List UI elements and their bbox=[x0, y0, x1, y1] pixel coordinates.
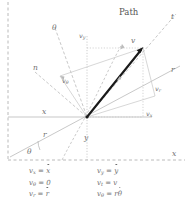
vtheta-component-label: vθ bbox=[62, 78, 69, 86]
equation-lhs: vθ bbox=[29, 179, 36, 187]
velocity-vector-label: v bbox=[131, 37, 135, 45]
equation-row: vx = x bbox=[29, 166, 51, 178]
vx-component-label: vx bbox=[146, 111, 152, 119]
equation-equals-sign: = bbox=[35, 190, 45, 198]
theta-angle-arc bbox=[38, 141, 40, 150]
equation-column-left: vx = xvθ = 0vr = r bbox=[29, 166, 51, 201]
n-axis-label: n bbox=[33, 64, 38, 72]
r-axis-right-label: r bbox=[171, 66, 175, 74]
vx-sub: x bbox=[150, 113, 153, 118]
equation-equals-sign: = bbox=[103, 179, 113, 187]
equation-rhs: y bbox=[114, 167, 118, 175]
vy-sub: y bbox=[83, 35, 86, 40]
equation-row: vy = y bbox=[97, 166, 122, 178]
equation-block: vx = xvθ = 0vr = r vy = yvt = vvθ = rθ bbox=[0, 163, 185, 205]
r-axis-line bbox=[10, 66, 180, 157]
vy-component-label: vy bbox=[79, 33, 85, 41]
x-axis-label: x bbox=[42, 108, 46, 116]
theta-angle-label: θ bbox=[27, 148, 32, 156]
equation-row: vt = v bbox=[97, 178, 122, 190]
equation-lhs: vy bbox=[97, 167, 104, 175]
velocity-components-figure: Path t r θ n x r θ y x v vy vx vr vθ vx … bbox=[0, 0, 185, 205]
equation-equals-sign: = bbox=[36, 167, 46, 175]
theta-axis-label: θ bbox=[52, 24, 57, 32]
equation-rhs: r bbox=[46, 190, 49, 198]
y-axis-label: y bbox=[84, 134, 88, 142]
equation-lhs: vθ bbox=[97, 190, 104, 198]
vtheta-sub: θ bbox=[66, 80, 69, 85]
equation-rhs: 0 bbox=[46, 179, 50, 187]
equation-rhs: v bbox=[113, 179, 117, 187]
equation-rhs: rθ bbox=[114, 190, 122, 198]
vr-component-label: vr bbox=[155, 86, 161, 94]
t-axis-label: t bbox=[171, 13, 174, 21]
equation-column-right: vy = yvt = vvθ = rθ bbox=[97, 166, 122, 201]
vr-sub: r bbox=[159, 88, 161, 93]
equation-equals-sign: = bbox=[104, 190, 114, 198]
velocity-vector bbox=[87, 50, 141, 117]
equation-rhs: x bbox=[46, 167, 50, 175]
path-label: Path bbox=[119, 8, 138, 17]
vr-parallel-line bbox=[143, 48, 155, 96]
r-axis-label: r bbox=[43, 131, 47, 139]
equation-row: vθ = rθ bbox=[97, 189, 122, 201]
equation-equals-sign: = bbox=[36, 179, 46, 187]
equation-equals-sign: = bbox=[104, 167, 114, 175]
equation-lhs: vx bbox=[29, 167, 36, 175]
vr-component-line bbox=[87, 96, 155, 117]
equation-row: vr = r bbox=[29, 189, 51, 201]
x-axis-bottom-label: x bbox=[172, 150, 176, 158]
